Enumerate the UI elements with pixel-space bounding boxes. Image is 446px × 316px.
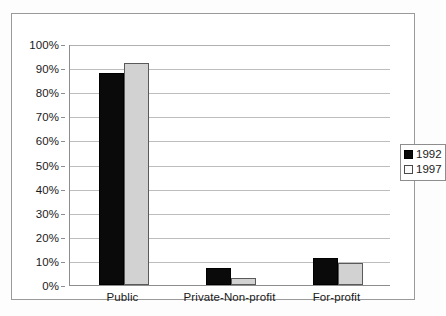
y-tick-label: 60% [36,135,59,147]
y-tick-label: 100% [29,39,59,51]
x-category-label: For-profit [313,291,361,303]
x-axis: PublicPrivate-Non-profitFor-profit [69,291,390,311]
legend-item-1992[interactable]: 1992 [404,147,442,162]
legend-swatch-icon [404,165,413,174]
legend-label: 1992 [416,149,442,161]
bar-for-profit-1997[interactable] [338,263,363,285]
chart-legend[interactable]: 19921997 [400,144,446,181]
y-tick-mark [61,214,65,215]
legend-swatch-icon [404,150,413,159]
bar-public-1992[interactable] [99,73,124,285]
y-tick-label: 20% [36,232,59,244]
y-tick-mark [61,190,65,191]
bar-group [99,45,149,285]
bar-private-non-profit-1997[interactable] [231,278,256,285]
bar-public-1997[interactable] [124,63,149,285]
y-tick-mark [61,286,65,287]
legend-item-1997[interactable]: 1997 [404,162,442,177]
y-tick-mark [61,262,65,263]
y-tick-mark [61,238,65,239]
bar-private-non-profit-1992[interactable] [206,268,231,285]
y-tick-label: 30% [36,208,59,220]
y-tick-label: 70% [36,111,59,123]
y-tick-label: 0% [42,280,59,292]
y-tick-mark [61,69,65,70]
y-axis: 0%10%20%30%40%50%60%70%80%90%100% [23,45,65,286]
bar-group [313,45,363,285]
bar-group [206,45,256,285]
plot-area [69,45,390,286]
y-tick-mark [61,166,65,167]
y-tick-label: 90% [36,63,59,75]
y-tick-mark [61,45,65,46]
figure-frame: 0%10%20%30%40%50%60%70%80%90%100% Public… [11,13,415,300]
bar-for-profit-1992[interactable] [313,258,338,285]
y-tick-label: 40% [36,184,59,196]
x-category-label: Private-Non-profit [184,291,276,303]
y-tick-label: 80% [36,87,59,99]
y-tick-label: 50% [36,160,59,172]
y-tick-label: 10% [36,256,59,268]
legend-label: 1997 [416,164,442,176]
y-tick-mark [61,117,65,118]
y-tick-mark [61,141,65,142]
x-category-label: Public [107,291,139,303]
y-tick-mark [61,93,65,94]
